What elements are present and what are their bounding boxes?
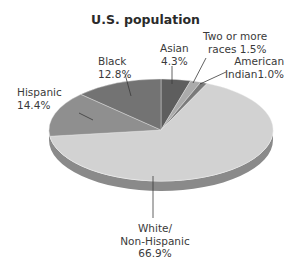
label-hispanic: Hispanic 14.4% bbox=[17, 86, 62, 111]
leader-two-or-more bbox=[193, 58, 206, 83]
leader-american-indian bbox=[200, 72, 226, 84]
label-american-indian: American Indian1.0% bbox=[225, 55, 284, 80]
label-white-non-hispanic: White/ Non-Hispanic 66.9% bbox=[120, 222, 190, 260]
label-two-or-more-races: Two or more races 1.5% bbox=[203, 30, 267, 55]
label-black: Black 12.8% bbox=[98, 55, 131, 80]
label-asian: Asian 4.3% bbox=[160, 42, 189, 67]
